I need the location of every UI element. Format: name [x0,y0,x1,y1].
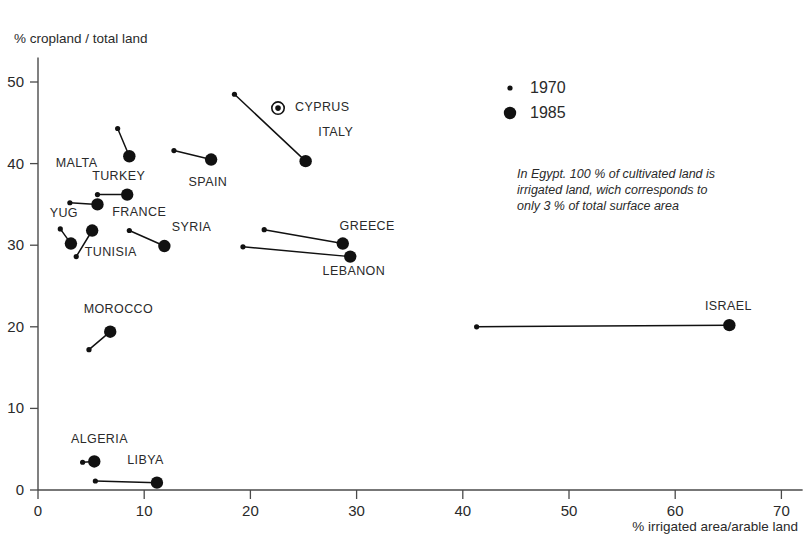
legend-label-1985: 1985 [530,104,566,121]
marker-1985 [65,237,77,249]
y-tick-label: 50 [7,73,24,90]
point-label-turkey: TURKEY [92,169,145,183]
marker-1985 [88,455,100,467]
point-label-cyprus: CYPRUS [295,100,350,114]
marker-1970 [58,226,63,231]
marker-1970 [67,200,72,205]
point-label-yug: YUG [50,206,78,220]
data-point-yug [58,226,77,249]
data-point-greece [262,227,349,250]
marker-1970 [93,478,98,483]
marker-1985 [337,237,349,249]
data-point-libya [93,476,163,488]
y-tick-label: 20 [7,318,24,335]
x-tick-label: 60 [667,502,684,519]
marker-1985 [104,325,116,337]
data-point-turkey [95,188,134,200]
marker-1970 [262,227,267,232]
legend-label-1970: 1970 [530,79,566,96]
point-label-libya: LIBYA [127,453,164,467]
marker-1970 [171,148,176,153]
point-label-tunisia: TUNISIA [85,245,137,259]
marker-1970 [86,347,91,352]
point-label-syria: SYRIA [172,220,212,234]
y-tick-label: 0 [16,481,24,498]
legend-marker-1985 [504,107,516,119]
y-tick-label: 10 [7,399,24,416]
point-label-algeria: ALGERIA [71,432,128,446]
marker-1985 [158,240,170,252]
marker-1985 [151,476,163,488]
data-point-morocco [86,325,116,352]
egypt-note-line: only 3 % of total surface area [517,199,679,213]
x-tick-label: 10 [136,502,153,519]
marker-1985 [299,155,311,167]
marker-1985 [275,105,281,111]
egypt-note: In Egypt. 100 % of cultivated land isirr… [517,167,715,213]
egypt-note-line: irrigated land, wich corresponds to [517,183,707,197]
point-label-lebanon: LEBANON [323,264,386,278]
point-label-france: FRANCE [112,205,166,219]
x-axis-title: % irrigated area/arable land [632,519,798,534]
y-tick-label: 40 [7,155,24,172]
marker-1970 [232,92,237,97]
data-point-malta [115,126,135,163]
legend-marker-1970 [507,85,512,90]
scatter-chart: 01020304050010203040506070 MALTASPAINITA… [0,0,806,543]
data-point-israel [474,319,736,331]
data-point-cyprus [272,102,284,114]
marker-1970 [240,244,245,249]
marker-1970 [80,460,85,465]
point-label-israel: ISRAEL [705,299,752,313]
y-tick-label: 30 [7,236,24,253]
chart-page: 01020304050010203040506070 MALTASPAINITA… [0,0,806,543]
marker-1985 [91,198,103,210]
y-axis-title: % cropland / total land [14,31,148,46]
marker-1985 [121,188,133,200]
x-tick-label: 50 [561,502,578,519]
marker-1985 [723,319,735,331]
x-tick-label: 40 [454,502,471,519]
marker-1985 [344,250,356,262]
marker-1970 [474,324,479,329]
point-label-morocco: MOROCCO [84,302,153,316]
marker-1985 [86,224,98,236]
marker-1985 [123,150,135,162]
marker-1970 [115,126,120,131]
point-label-malta: MALTA [56,156,98,170]
data-point-algeria [80,455,100,467]
data-point-spain [171,148,217,166]
point-label-italy: ITALY [318,125,353,139]
change-connector [264,230,343,244]
x-tick-label: 30 [348,502,365,519]
point-label-spain: SPAIN [189,175,228,189]
marker-1985 [205,153,217,165]
egypt-note-line: In Egypt. 100 % of cultivated land is [517,167,715,181]
change-connector [95,481,157,483]
x-tick-label: 70 [773,502,790,519]
change-connector [477,325,730,327]
marker-1970 [127,228,132,233]
axes: 01020304050010203040506070 [7,58,802,519]
x-tick-label: 20 [242,502,259,519]
x-tick-label: 0 [34,502,42,519]
marker-1970 [95,192,100,197]
marker-1970 [74,254,79,259]
data-series [58,92,736,489]
chart-legend: 19701985 [504,79,566,121]
change-connector [243,247,350,257]
point-labels: MALTASPAINITALYCYPRUSTURKEYFRANCEYUGTUNI… [50,100,752,467]
point-label-greece: GREECE [340,219,395,233]
